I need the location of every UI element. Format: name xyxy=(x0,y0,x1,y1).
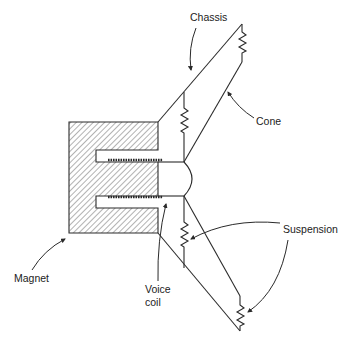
arrow-voice-coil xyxy=(158,204,166,281)
label-cone: Cone xyxy=(256,115,281,127)
dust-cap xyxy=(184,162,192,196)
spider-suspension-upper xyxy=(181,92,188,162)
arrow-suspension-lower xyxy=(248,240,288,312)
arrow-magnet xyxy=(32,239,65,270)
cone-upper xyxy=(184,62,242,162)
outer-suspension-bottom xyxy=(237,296,244,331)
label-voice-coil-1: Voice xyxy=(145,283,171,295)
spider-suspension-lower xyxy=(181,196,188,268)
label-suspension: Suspension xyxy=(283,223,338,235)
arrow-chassis xyxy=(190,28,196,70)
chassis-upper xyxy=(158,24,242,122)
label-voice-coil-2: coil xyxy=(145,296,161,308)
magnet-shape xyxy=(69,122,158,233)
arrow-suspension-upper xyxy=(191,222,280,239)
arrow-cone xyxy=(228,92,254,118)
label-magnet: Magnet xyxy=(14,272,49,284)
outer-suspension-top xyxy=(239,24,246,62)
cone-lower xyxy=(184,196,240,296)
label-chassis: Chassis xyxy=(190,11,227,23)
chassis-lower xyxy=(158,233,240,331)
loudspeaker-diagram: Chassis Cone Suspension Magnet Voice coi… xyxy=(0,0,345,355)
